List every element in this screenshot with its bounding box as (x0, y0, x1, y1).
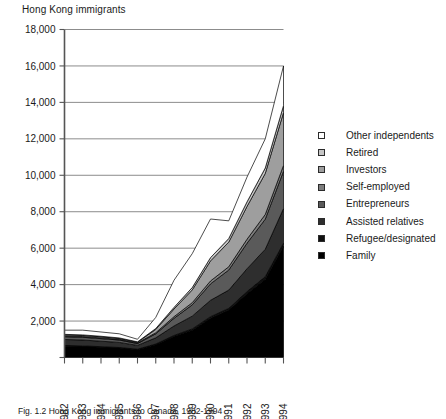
legend-item[interactable]: Investors (318, 161, 444, 178)
legend-label: Investors (346, 164, 387, 176)
legend-swatch-icon (318, 149, 325, 156)
legend-label: Self-employed (346, 181, 410, 193)
legend-item[interactable]: Other independents (318, 127, 444, 144)
legend-swatch-icon (318, 166, 325, 173)
chart-container: Hong Kong immigrants 2,0004,0006,0008,00… (0, 0, 446, 419)
legend-item[interactable]: Assisted relatives (318, 213, 444, 230)
legend-label: Other independents (346, 130, 434, 142)
legend-swatch-icon (318, 184, 325, 191)
y-tick-label: 6,000 (30, 243, 55, 254)
legend-swatch-icon (318, 132, 325, 139)
y-tick-label: 12,000 (25, 133, 56, 144)
y-tick-label: 14,000 (25, 97, 56, 108)
legend-label: Assisted relatives (346, 216, 424, 228)
legend-swatch-icon (318, 218, 325, 225)
y-tick-label: 10,000 (25, 170, 56, 181)
legend-label: Family (346, 250, 375, 262)
y-tick-label: 8,000 (30, 206, 55, 217)
legend-item[interactable]: Retired (318, 144, 444, 161)
y-tick-label: 18,000 (25, 24, 56, 35)
legend-swatch-icon (318, 201, 325, 208)
legend-swatch-icon (318, 235, 325, 242)
chart-legend: Other independentsRetiredInvestorsSelf-e… (318, 127, 444, 265)
y-tick-label: 4,000 (30, 279, 55, 290)
legend-item[interactable]: Self-employed (318, 179, 444, 196)
legend-item[interactable]: Refugee/designated (318, 230, 444, 247)
legend-item[interactable]: Entrepreneurs (318, 196, 444, 213)
y-tick-label: 16,000 (25, 61, 56, 72)
legend-label: Refugee/designated (346, 233, 436, 245)
legend-label: Retired (346, 147, 378, 159)
legend-label: Entrepreneurs (346, 198, 409, 210)
legend-swatch-icon (318, 252, 325, 259)
y-tick-label: 2,000 (30, 316, 55, 327)
figure-caption: Fig. 1.2 Hong Kong immigrants to Canada,… (18, 406, 446, 417)
y-axis-ticks: 2,0004,0006,0008,00010,00012,00014,00016… (25, 24, 65, 357)
legend-item[interactable]: Family (318, 247, 444, 264)
